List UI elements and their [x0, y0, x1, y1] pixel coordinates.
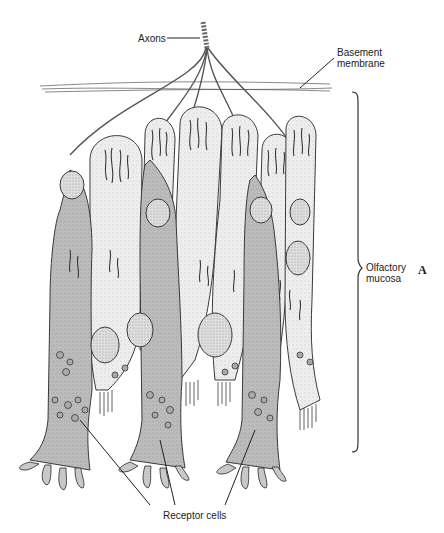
microvilli [100, 380, 316, 430]
panel-letter: A [418, 263, 427, 278]
receptor-cells-label: Receptor cells [163, 510, 226, 521]
axons-label: Axons [138, 33, 166, 44]
receptor-leader-1 [80, 420, 150, 505]
olfactory-mucosa-label-line2: mucosa [366, 273, 406, 284]
basement-membrane [40, 82, 332, 92]
basement-membrane-label-line1: Basement [337, 47, 385, 58]
basement-membrane-label-line2: membrane [337, 58, 385, 69]
olfactory-mucosa-label: Olfactory mucosa [366, 262, 406, 284]
basement-membrane-label: Basement membrane [337, 47, 385, 69]
basal-processes [20, 462, 286, 490]
olfactory-mucosa-brace [352, 92, 362, 452]
olfactory-mucosa-label-line1: Olfactory [366, 262, 406, 273]
supporting-cells [89, 107, 320, 410]
